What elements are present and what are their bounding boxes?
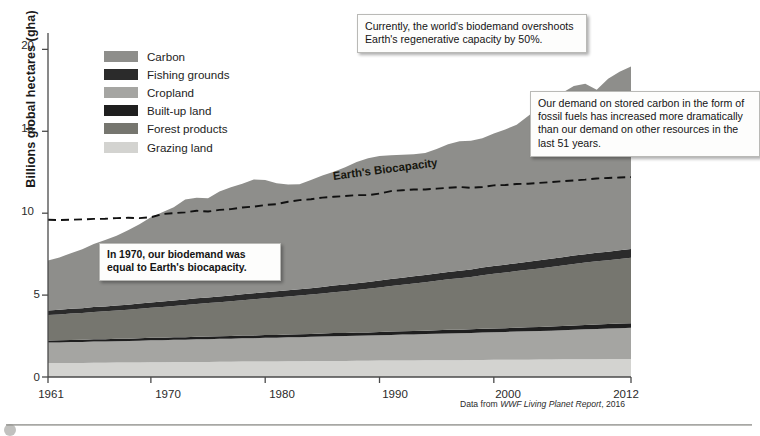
x-tick-1961: 1961 bbox=[25, 388, 77, 400]
callout-1970: In 1970, our biodemand was equal to Eart… bbox=[99, 243, 281, 281]
legend-item-built-up-land: Built-up land bbox=[104, 102, 230, 120]
chart-legend: Carbon Fishing grounds Cropland Built-up… bbox=[104, 47, 230, 156]
legend-item-forest-products: Forest products bbox=[104, 120, 230, 138]
legend-label-built-up-land: Built-up land bbox=[147, 104, 211, 117]
legend-label-forest-products: Forest products bbox=[147, 122, 228, 135]
y-tick-20: 20 bbox=[8, 39, 34, 51]
source-italic: WWF Living Planet Report bbox=[500, 399, 601, 409]
legend-swatch-built-up-land bbox=[104, 105, 138, 116]
legend-swatch-forest-products bbox=[104, 123, 138, 134]
y-tick-0: 0 bbox=[14, 371, 40, 383]
corner-marker-icon bbox=[4, 424, 16, 436]
legend-item-carbon: Carbon bbox=[104, 47, 230, 65]
legend-swatch-carbon bbox=[104, 51, 138, 62]
bottom-divider bbox=[6, 424, 752, 426]
callout-overshoot: Currently, the world's biodemand oversho… bbox=[357, 14, 587, 53]
y-axis-title: Billions global hectares (gha) bbox=[24, 0, 38, 214]
legend-label-fishing-grounds: Fishing grounds bbox=[147, 68, 230, 81]
legend-swatch-cropland bbox=[104, 87, 138, 98]
legend-item-cropland: Cropland bbox=[104, 83, 230, 101]
source-prefix: Data from bbox=[460, 399, 500, 409]
source-suffix: , 2016 bbox=[601, 399, 625, 409]
x-tick-1990: 1990 bbox=[369, 388, 421, 400]
y-tick-10: 10 bbox=[8, 205, 34, 217]
legend-item-fishing-grounds: Fishing grounds bbox=[104, 65, 230, 83]
y-tick-5: 5 bbox=[14, 288, 40, 300]
x-tick-1970: 1970 bbox=[142, 388, 194, 400]
legend-label-grazing-land: Grazing land bbox=[147, 141, 213, 154]
legend-swatch-grazing-land bbox=[104, 142, 138, 153]
x-tick-1980: 1980 bbox=[256, 388, 308, 400]
source-note: Data from WWF Living Planet Report, 2016 bbox=[460, 399, 625, 409]
y-tick-15: 15 bbox=[8, 122, 34, 134]
legend-label-cropland: Cropland bbox=[147, 86, 194, 99]
legend-item-grazing-land: Grazing land bbox=[104, 138, 230, 156]
legend-swatch-fishing-grounds bbox=[104, 69, 138, 80]
legend-label-carbon: Carbon bbox=[147, 50, 185, 63]
callout-carbon: Our demand on stored carbon in the form … bbox=[530, 91, 760, 157]
